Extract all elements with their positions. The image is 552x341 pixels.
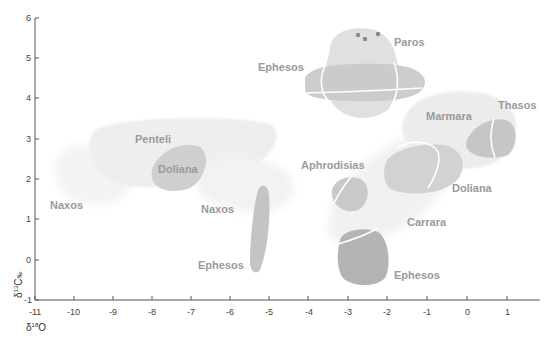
label-doliana-right: Doliana: [452, 182, 493, 194]
x-tick-label: -4: [305, 307, 313, 317]
x-tick-label: 0: [465, 307, 470, 317]
y-axis-label-unit: ‰: [16, 272, 23, 279]
x-tick-label: -1: [423, 307, 431, 317]
label-naxos-mid: Naxos: [201, 203, 234, 215]
y-tick-label: -1: [24, 295, 32, 305]
y-tick-label: 1: [26, 214, 31, 224]
x-tick-label: -3: [344, 307, 352, 317]
svg-text:δ18O: δ18O: [26, 322, 46, 333]
label-ephesos-bottom: Ephesos: [394, 269, 440, 281]
x-tick-label: -8: [148, 307, 156, 317]
x-tick-label: -5: [265, 307, 273, 317]
x-ticks: -11 -10 -9 -8 -7 -6 -5 -4 -3 -2 -1 0 1: [29, 296, 510, 317]
y-ticks: -1 0 1 2 3 4 5 6: [24, 13, 39, 305]
x-tick-label: -11: [29, 307, 41, 317]
label-penteli: Penteli: [135, 133, 171, 145]
region-ephesos-bottom: [338, 228, 389, 285]
y-tick-label: 5: [26, 53, 31, 63]
y-tick-label: 6: [26, 13, 31, 23]
x-tick-label: 1: [505, 307, 510, 317]
label-thasos: Thasos: [498, 99, 537, 111]
label-doliana-left: Doliana: [158, 163, 199, 175]
y-tick-label: 0: [26, 255, 31, 265]
x-tick-label: -2: [383, 307, 391, 317]
y-axis-label: δ13C‰: [13, 272, 24, 299]
label-carrara: Carrara: [407, 216, 447, 228]
y-tick-label: 4: [26, 93, 31, 103]
y-tick-label: 3: [26, 134, 31, 144]
isotope-chart: -1 0 1 2 3 4 5 6 -11 -10 -9 -8 -7 -6 -5 …: [0, 0, 552, 341]
label-marmara: Marmara: [426, 110, 473, 122]
x-tick-label: -10: [67, 307, 80, 317]
label-naxos-left: Naxos: [50, 199, 83, 211]
region-ephesos-top: [305, 62, 425, 108]
label-ephesos-top: Ephesos: [258, 61, 304, 73]
x-tick-label: -9: [109, 307, 117, 317]
label-paros: Paros: [394, 36, 425, 48]
x-axis-label-element: O: [38, 322, 46, 333]
label-ephesos-low: Ephesos: [198, 259, 244, 271]
x-axis-label: δ18O: [26, 322, 46, 333]
svg-text:δ13C‰: δ13C‰: [13, 272, 24, 299]
x-tick-label: -7: [187, 307, 195, 317]
label-aphrodisias: Aphrodisias: [301, 159, 365, 171]
y-axis-label-element: C: [13, 279, 24, 286]
y-tick-label: 2: [26, 174, 31, 184]
x-tick-label: -6: [226, 307, 234, 317]
